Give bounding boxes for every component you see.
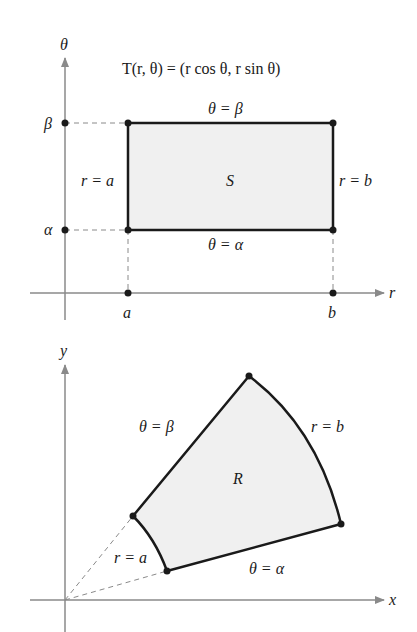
ray-inner-lower — [65, 571, 167, 600]
vertex-top — [246, 373, 253, 380]
top-plot: θ r T(r, θ) = (r cos θ, r sin θ) S θ = β… — [30, 36, 396, 321]
region-r-label: R — [232, 470, 243, 487]
edge-top-label: θ = β — [208, 100, 243, 118]
edge-upper-label: θ = β — [139, 418, 174, 436]
transformation-formula: T(r, θ) = (r cos θ, r sin θ) — [122, 60, 280, 78]
a-point — [125, 290, 132, 297]
corner-tr — [330, 120, 337, 127]
alpha-point — [62, 227, 69, 234]
bottom-plot: y x R θ = β r = b r = a θ = α — [30, 342, 396, 632]
b-tick-label: b — [328, 304, 336, 321]
edge-left-label: r = a — [81, 172, 114, 189]
edge-inner-label: r = a — [114, 549, 147, 566]
edge-right-label: r = b — [339, 172, 372, 189]
theta-axis-label: θ — [60, 36, 68, 53]
alpha-tick-label: α — [44, 221, 53, 238]
x-axis-label: x — [388, 591, 396, 608]
r-axis-label: r — [389, 284, 396, 301]
beta-point — [62, 120, 69, 127]
corner-tl — [125, 120, 132, 127]
beta-tick-label: β — [43, 115, 52, 133]
corner-bl — [125, 227, 132, 234]
a-tick-label: a — [123, 304, 131, 321]
y-axis-label: y — [58, 342, 68, 360]
edge-outer-label: r = b — [311, 418, 344, 435]
region-s-label: S — [226, 172, 234, 189]
b-point — [330, 290, 337, 297]
polar-transformation-diagram: θ r T(r, θ) = (r cos θ, r sin θ) S θ = β… — [0, 0, 417, 632]
vertex-right — [338, 521, 345, 528]
corner-br — [330, 227, 337, 234]
vertex-left — [130, 513, 137, 520]
edge-bottom-label: θ = α — [208, 236, 244, 253]
vertex-bottom — [164, 568, 171, 575]
edge-lower-label: θ = α — [249, 560, 285, 577]
